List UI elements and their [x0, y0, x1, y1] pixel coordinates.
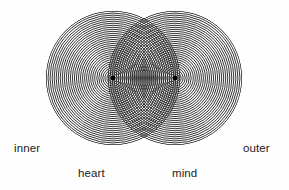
right-circle-center-dot: [173, 76, 178, 81]
label-outer: outer: [243, 142, 270, 155]
venn-diagram-figure: inner outer heart mind: [0, 0, 289, 190]
venn-diagram-canvas: [0, 0, 289, 190]
label-heart: heart: [78, 167, 105, 180]
label-mind: mind: [172, 167, 197, 180]
label-inner: inner: [14, 142, 40, 155]
left-circle-center-dot: [111, 76, 116, 81]
